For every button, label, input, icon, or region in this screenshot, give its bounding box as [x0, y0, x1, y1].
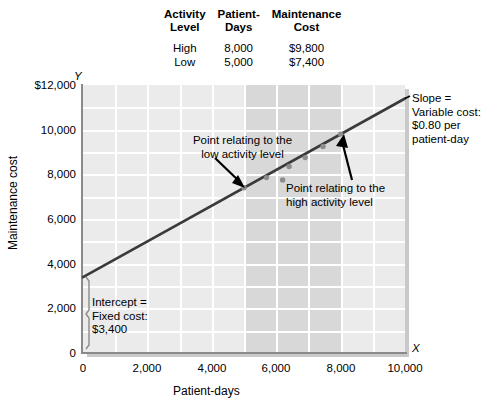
x-axis-line [81, 352, 407, 354]
y-tick-label: $12,000 [34, 79, 76, 91]
x-tick-label: 0 [53, 362, 113, 374]
chart-figure: Activity Level Patient- Days Maintenance… [0, 0, 501, 408]
x-tick-label: 10,000 [375, 362, 435, 374]
cell-activity-level: High [158, 41, 212, 55]
table-header-row: Activity Level Patient- Days Maintenance… [158, 8, 347, 34]
annotation-line-2: Variable cost: [412, 106, 501, 120]
annotation-line-1: Point relating to the [286, 182, 416, 196]
annotation-line-4: patient-day [412, 133, 501, 147]
header-line-1: Patient- [218, 8, 260, 21]
annotation-slope: Slope = Variable cost: $0.80 per patient… [412, 92, 501, 146]
cell-maintenance-cost: $9,800 [266, 41, 348, 55]
y-tick-label: 4,000 [47, 258, 76, 270]
header-line-1: Maintenance [272, 8, 342, 21]
x-tick-label: 4,000 [182, 362, 242, 374]
annotation-line-1: Slope = [412, 92, 501, 106]
x-tick-label: 2,000 [117, 362, 177, 374]
cell-patient-days: 5,000 [212, 55, 266, 69]
annotation-line-2: high activity level [286, 196, 416, 210]
gridline-horizontal [83, 174, 405, 176]
high-low-data-table: Activity Level Patient- Days Maintenance… [158, 8, 347, 69]
x-tick-label: 6,000 [246, 362, 306, 374]
gridline-horizontal [83, 107, 405, 109]
x-tick-label: 8,000 [311, 362, 371, 374]
header-line-2: Level [164, 21, 206, 34]
gridline-horizontal [83, 241, 405, 243]
column-header-activity-level: Activity Level [158, 8, 212, 34]
gridline-horizontal [83, 130, 405, 132]
plot-shadow-right [405, 89, 409, 357]
y-tick-label: 10,000 [41, 124, 76, 136]
header-line-2: Days [218, 21, 260, 34]
y-tick-label: 6,000 [47, 213, 76, 225]
annotation-line-3: $3,400 [92, 323, 192, 337]
y-axis-letter: Y [74, 70, 82, 82]
cell-maintenance-cost: $7,400 [266, 55, 348, 69]
y-tick-label: 2,000 [47, 302, 76, 314]
gridline-horizontal [83, 286, 405, 288]
y-axis-title: Maintenance cost [6, 133, 20, 273]
cell-activity-level: Low [158, 55, 212, 69]
header-line-2: Cost [272, 21, 342, 34]
y-tick-label: 0 [70, 347, 76, 359]
annotation-high-activity: Point relating to the high activity leve… [286, 182, 416, 209]
cell-patient-days: 8,000 [212, 41, 266, 55]
annotation-line-3: $0.80 per [412, 119, 501, 133]
x-axis-title: Patient-days [173, 384, 240, 398]
y-tick-label: 8,000 [47, 168, 76, 180]
annotation-line-2: low activity level [180, 148, 305, 162]
table-row: Low 5,000 $7,400 [158, 55, 347, 69]
column-header-patient-days: Patient- Days [212, 8, 266, 34]
y-axis-line [81, 84, 83, 354]
gridline-horizontal [83, 219, 405, 221]
annotation-low-activity: Point relating to the low activity level [180, 134, 305, 161]
gridline-horizontal [83, 264, 405, 266]
table-row: High 8,000 $9,800 [158, 41, 347, 55]
annotation-line-1: Point relating to the [180, 134, 305, 148]
table-spacer-row [158, 34, 347, 41]
annotation-line-1: Intercept = [92, 296, 192, 310]
header-line-1: Activity [164, 8, 206, 21]
annotation-intercept: Intercept = Fixed cost: $3,400 [92, 296, 192, 337]
column-header-maintenance-cost: Maintenance Cost [266, 8, 348, 34]
x-axis-letter: X [412, 342, 420, 354]
annotation-line-2: Fixed cost: [92, 310, 192, 324]
